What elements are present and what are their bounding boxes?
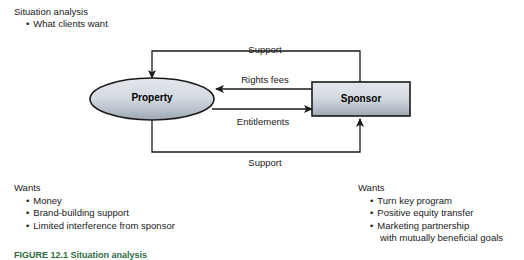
wants-left-item-1: Brand-building support [33,207,129,220]
bullet-icon: • [26,207,29,220]
wants-right-item-2-continuation: with mutually beneficial goals [380,232,503,245]
wants-right-item-0: Turn key program [377,195,452,208]
edge-label-support-bottom: Support [205,157,325,168]
bullet-icon: • [370,195,373,208]
wants-right-title: Wants [358,182,503,195]
edge-label-support-top: Support [205,44,325,55]
list-item: • Brand-building support [26,207,175,220]
wants-left-item-2: Limited interference from sponsor [33,220,175,233]
edge-label-entitlements: Entitlements [198,116,328,127]
list-item: • Marketing partnership [370,220,503,233]
situation-analysis-header: Situation analysis • What clients want [14,6,108,30]
bullet-icon: • [26,18,29,30]
wants-left-item-0: Money [33,195,62,208]
list-item: • Money [26,195,175,208]
list-item: • Limited interference from sponsor [26,220,175,233]
list-item: • Turn key program [370,195,503,208]
property-wants-list: Wants • Money • Brand-building support •… [14,182,175,232]
edge-label-rights-fees: Rights fees [205,74,325,85]
bullet-icon: • [370,220,373,233]
wants-right-item-1: Positive equity transfer [377,207,473,220]
sponsor-wants-list: Wants • Turn key program • Positive equi… [358,182,503,245]
wants-left-title: Wants [14,182,175,195]
header-bullet-label: What clients want [33,18,107,30]
bullet-icon: • [26,195,29,208]
header-bullet-item: • What clients want [26,18,108,30]
figure-caption: FIGURE 12.1 Situation analysis [14,250,147,260]
sponsor-node-label: Sponsor [312,93,410,104]
list-item: • Positive equity transfer [370,207,503,220]
header-title: Situation analysis [14,6,108,18]
property-node-label: Property [90,92,214,103]
wants-right-item-2: Marketing partnership [377,220,469,233]
bullet-icon: • [26,220,29,233]
bullet-icon: • [370,207,373,220]
